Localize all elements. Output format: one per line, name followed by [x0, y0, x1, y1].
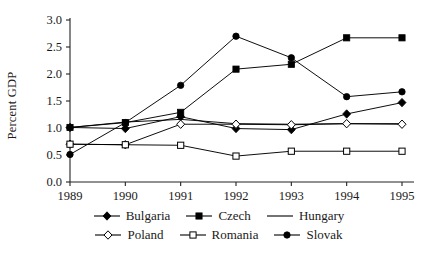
data-point — [122, 142, 128, 148]
data-point — [399, 148, 405, 154]
data-point — [288, 55, 294, 61]
data-point — [288, 61, 294, 67]
legend-symbol — [104, 230, 112, 238]
legend-label: Czech — [218, 209, 250, 222]
data-point — [288, 148, 294, 154]
legend-marker-filled-diamond — [92, 210, 122, 222]
data-point — [178, 109, 184, 115]
legend-item-romania[interactable]: Romania — [178, 228, 259, 241]
legend-item-bulgaria[interactable]: Bulgaria — [92, 209, 171, 222]
legend-row: PolandRomaniaSlovak — [0, 225, 436, 244]
data-point — [343, 119, 351, 127]
data-point — [343, 110, 351, 118]
legend-symbol — [103, 211, 111, 219]
chart-legend: BulgariaCzechHungaryPolandRomaniaSlovak — [0, 206, 436, 244]
data-point — [344, 35, 350, 41]
legend-row: BulgariaCzechHungary — [0, 206, 436, 225]
series-slovak — [67, 33, 405, 158]
legend-marker-filled-square — [184, 210, 214, 222]
legend-symbol — [189, 231, 195, 237]
legend-label: Poland — [127, 228, 163, 241]
data-point — [67, 151, 73, 157]
data-series-group — [66, 33, 406, 159]
legend-marker-none — [265, 210, 295, 222]
data-point — [122, 119, 128, 125]
data-point — [233, 66, 239, 72]
data-point — [178, 142, 184, 148]
data-point — [399, 35, 405, 41]
legend-item-poland[interactable]: Poland — [93, 228, 163, 241]
legend-label: Romania — [212, 228, 259, 241]
data-point — [67, 141, 73, 147]
series-romania — [67, 141, 405, 159]
data-point — [233, 153, 239, 159]
legend-marker-filled-circle — [272, 229, 302, 241]
legend-label: Slovak — [306, 228, 342, 241]
data-point — [344, 148, 350, 154]
legend-marker-open-square — [178, 229, 208, 241]
legend-marker-open-diamond — [93, 229, 123, 241]
data-point — [398, 98, 406, 106]
series-czech — [67, 35, 405, 131]
legend-symbol — [284, 231, 290, 237]
data-point — [398, 120, 406, 128]
axes — [66, 18, 414, 186]
legend-label: Bulgaria — [126, 209, 171, 222]
data-point — [287, 121, 295, 129]
legend-label: Hungary — [299, 209, 345, 222]
data-point — [177, 120, 185, 128]
data-point — [399, 89, 405, 95]
legend-item-czech[interactable]: Czech — [184, 209, 250, 222]
series-line-czech — [70, 38, 402, 128]
legend-symbol — [196, 212, 202, 218]
series-line-slovak — [70, 36, 402, 154]
data-point — [343, 93, 349, 99]
chart-container: Percent GDP 0.00.51.01.52.02.53.0 198919… — [0, 0, 436, 256]
legend-item-hungary[interactable]: Hungary — [265, 209, 345, 222]
data-point — [177, 82, 183, 88]
legend-item-slovak[interactable]: Slovak — [272, 228, 342, 241]
data-point — [233, 33, 239, 39]
